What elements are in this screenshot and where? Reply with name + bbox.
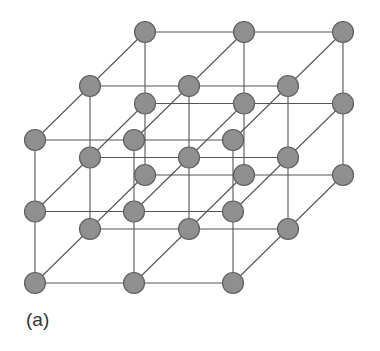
bond-line [233,229,288,283]
atom [278,219,299,240]
atom [179,219,200,240]
lattice-atoms [25,22,354,294]
bond-line [288,175,343,229]
atom [135,93,156,114]
atom [333,93,354,114]
atom [179,147,200,168]
figure-label: (a) [26,309,49,331]
atom [333,165,354,186]
atom [179,76,200,97]
atom [80,147,101,168]
atom [135,165,156,186]
atom [124,201,145,222]
atom [124,130,145,151]
bond-line [288,32,343,86]
bond-line [134,229,189,283]
atom [234,22,255,43]
atom [25,273,46,294]
atom [124,273,145,294]
bond-line [35,229,90,283]
atom [223,130,244,151]
atom [333,22,354,43]
bond-line [288,104,343,158]
atom [80,219,101,240]
bond-line [189,32,244,86]
atom [278,147,299,168]
atom [278,76,299,97]
atom [25,130,46,151]
cubic-lattice-diagram [0,0,380,351]
atom [223,201,244,222]
atom [135,22,156,43]
atom [234,93,255,114]
atom [25,201,46,222]
atom [223,273,244,294]
bond-line [35,158,90,212]
bond-line [35,86,90,140]
atom [80,76,101,97]
bond-line [90,32,145,86]
atom [234,165,255,186]
